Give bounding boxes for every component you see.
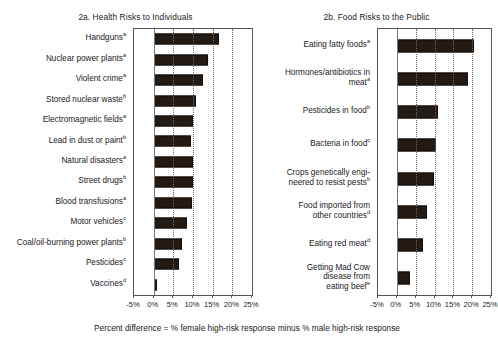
footnote-mark: b (123, 236, 126, 242)
footnote-mark: a (123, 195, 126, 201)
x-tick-label: 10% (426, 300, 441, 309)
footnote-mark: a (123, 31, 126, 37)
footnote-mark: c (123, 216, 126, 222)
footnote-mark: a (123, 154, 126, 160)
category-label: Eating fatty foodsa (304, 40, 370, 50)
x-tick-label: 0% (390, 300, 401, 309)
gridline-15 (213, 29, 214, 295)
tick-mark-5 (172, 295, 173, 298)
panels-row: 2a. Health Risks to Individuals Handguns… (0, 0, 494, 322)
footnote-mark: b (123, 134, 126, 140)
tick-mark--5 (377, 295, 378, 298)
gridline-5 (416, 29, 417, 295)
x-tick-label: 25% (482, 300, 497, 309)
footnote-mark: e (367, 280, 370, 286)
gridline-20 (472, 29, 473, 295)
bar-5 (154, 136, 191, 147)
tick-mark-10 (192, 295, 193, 298)
category-label: Natural disastersa (61, 156, 126, 166)
tick-mark-20 (471, 295, 472, 298)
panel-2b-title: 2b. Food Risks to the Public (259, 12, 494, 22)
gridline-15 (453, 29, 454, 295)
gridline-20 (232, 29, 233, 295)
x-tick-label: 5% (409, 300, 420, 309)
x-tick-label: 20% (464, 300, 479, 309)
bar-9 (154, 218, 187, 229)
x-tick-label: 15% (445, 300, 460, 309)
footnote-mark: a (123, 113, 126, 119)
tick-mark-5 (415, 295, 416, 298)
tick-mark-0 (396, 295, 397, 298)
category-label: Street drugsb (78, 176, 126, 186)
panel-2b-plot-area (377, 28, 492, 296)
bar-1 (397, 72, 469, 85)
tick-mark--5 (133, 295, 134, 298)
category-label: Nuclear power plantsa (46, 54, 126, 64)
panel-2a-category-labels: HandgunsaNuclear power plantsaViolent cr… (0, 28, 130, 296)
footnote-mark: d (123, 277, 126, 283)
x-tick-label: 0% (147, 300, 158, 309)
footnote-mark: b (123, 93, 126, 99)
bar-6 (397, 239, 423, 252)
x-tick-label: -5% (370, 300, 384, 309)
bar-11 (154, 259, 180, 270)
category-label: Hormones/antibiotics inmeata (285, 68, 370, 87)
category-label: Vaccinesd (90, 279, 126, 289)
footnote-mark: a (367, 76, 370, 82)
tick-mark-25 (251, 295, 252, 298)
gridline-10 (193, 29, 194, 295)
footnote-mark: c (367, 138, 370, 144)
tick-mark-25 (490, 295, 491, 298)
footnote-mark: a (123, 52, 126, 58)
footnote-mark: b (367, 104, 370, 110)
x-tick-label: 5% (167, 300, 178, 309)
x-tick-label: -5% (126, 300, 140, 309)
category-label: Handgunsa (86, 33, 126, 43)
panel-2a-plot-area (133, 28, 253, 296)
bar-5 (397, 205, 427, 218)
x-tick-label: 15% (204, 300, 219, 309)
bar-2 (154, 75, 203, 86)
tick-mark-0 (153, 295, 154, 298)
zero-line (154, 29, 155, 295)
category-label: Eating red meatd (309, 239, 370, 249)
bar-1 (154, 54, 208, 65)
bar-0 (154, 34, 219, 45)
tick-mark-15 (452, 295, 453, 298)
panel-2b-category-labels: Eating fatty foodsaHormones/antibiotics … (253, 28, 374, 296)
category-label: Bacteria in foodc (310, 139, 370, 149)
x-tick-label: 20% (224, 300, 239, 309)
footnote-mark: d (367, 237, 370, 243)
tick-mark-10 (434, 295, 435, 298)
category-label: Violent crimea (76, 74, 126, 84)
figure-footnote: Percent difference = % female high-risk … (0, 323, 494, 333)
category-label: Pesticides in foodb (303, 106, 370, 116)
x-tick-label: 10% (184, 300, 199, 309)
bar-10 (154, 238, 182, 249)
category-label: Blood transfusionsa (56, 197, 126, 207)
category-label: Crops genetically engi-neered to resist … (287, 168, 370, 187)
panel-health-risks: 2a. Health Risks to Individuals Handguns… (0, 0, 253, 322)
category-label: Stored nuclear wasteb (46, 95, 126, 105)
tick-mark-20 (231, 295, 232, 298)
category-label: Food imported fromother countriesd (299, 201, 370, 220)
footnote-mark: b (123, 175, 126, 181)
footnote-mark: a (367, 38, 370, 44)
bar-7 (397, 272, 410, 285)
footnote-mark: a (123, 72, 126, 78)
category-label: Electromagnetic fieldsa (43, 115, 126, 125)
tick-mark-15 (212, 295, 213, 298)
footnote-mark: d (367, 209, 370, 215)
category-label: Coal/oil-burning power plantsb (17, 238, 126, 248)
zero-line (397, 29, 398, 295)
footnote-mark: b (367, 176, 370, 182)
category-label: Getting Mad Cowdisease fromeating beefe (307, 263, 370, 292)
panel-2a-x-axis-ticks: -5%0%5%10%15%20%25% (133, 298, 253, 312)
footnote-mark: c (123, 257, 126, 263)
gridline-5 (173, 29, 174, 295)
bar-2 (397, 106, 438, 119)
category-label: Motor vehiclesc (70, 217, 126, 227)
category-label: Pesticidesc (86, 258, 126, 268)
panel-food-risks: 2b. Food Risks to the Public Eating fatt… (253, 0, 494, 322)
